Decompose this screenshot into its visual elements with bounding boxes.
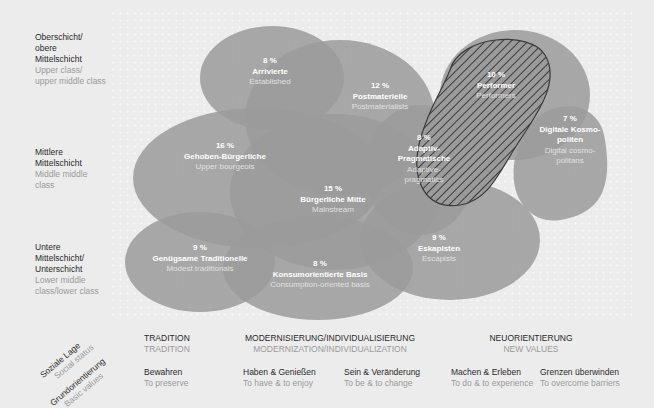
segment-genuegsame-traditionelle: 9 % Genügsame Traditionelle Modest tradi… [152,243,247,275]
row-label-lower: Untere Mittelschicht/ Unterschicht Lower… [35,242,99,297]
axis-group-modernization: MODERNISIERUNG/INDIVIDUALISIERUNG MODERN… [245,333,415,355]
axis-value-bewahren: Bewahren To preserve [144,367,188,389]
axis-group-tradition: TRADITION TRADITION [144,333,190,355]
segment-arrivierte: 8 % Arrivierte Established [249,56,290,88]
segment-postmaterielle: 12 % Postmaterielle Postmaterialists [352,81,408,113]
segment-adaptiv-pragmatische: 8 % Adaptiv- Pragmatische Adaptive- prag… [398,133,450,186]
segment-konsumorientierte-basis: 8 % Konsumorientierte Basis Consumption-… [270,259,370,291]
sinus-milieus-diagram: Oberschicht/ obere Mittelschicht Upper c… [0,0,654,408]
axis-value-grenzen-ueberwinden: Grenzen überwinden To overcome barriers [540,367,620,389]
row-label-middle: Mittlere Mittelschicht Middle middle cla… [35,147,87,191]
axis-value-machen-erleben: Machen & Erleben To do & to experience [451,367,533,389]
axis-value-sein-veraenderung: Sein & Veränderung To be & to change [344,367,420,389]
axis-group-new-values: NEUORIENTIERUNG NEW VALUES [489,333,572,355]
segment-digitale-kosmopoliten: 7 % Digitale Kosmo- politen Digital cosm… [540,114,601,167]
axis-value-haben-geniessen: Haben & Genießen To have & to enjoy [243,367,316,389]
segment-performer: 10 % Performer Performers [476,70,516,102]
row-label-upper: Oberschicht/ obere Mittelschicht Upper c… [35,32,106,87]
segment-buergerliche-mitte: 15 % Bürgerliche Mitte Mainstream [300,184,365,216]
segment-gehoben-buergerliche: 16 % Gehoben-Bürgerliche Upper bourgeois [184,141,266,173]
segment-eskapisten: 9 % Eskapisten Escapists [418,233,460,265]
